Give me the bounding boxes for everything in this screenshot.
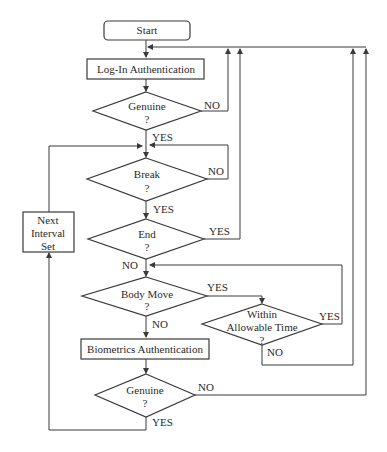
node-next-interval-line2: Interval — [31, 227, 65, 239]
label-end-yes: YES — [209, 225, 230, 237]
label-genuine1-no: NO — [204, 99, 220, 111]
label-genuine2-no: NO — [198, 381, 214, 393]
label-bodymove-no: NO — [152, 318, 168, 330]
node-within-time-line2: Allowable Time — [226, 321, 297, 333]
label-within-yes: YES — [319, 310, 340, 322]
node-end-line1: End — [138, 228, 156, 240]
node-genuine2-line1: Genuine — [126, 384, 163, 396]
node-next-interval-line1: Next — [37, 214, 58, 226]
label-genuine1-yes: YES — [152, 131, 173, 143]
label-within-no: NO — [267, 346, 283, 358]
node-break-line2: ? — [145, 182, 150, 194]
node-biometrics: Biometrics Authentication — [81, 339, 209, 359]
node-biometrics-label: Biometrics Authentication — [87, 343, 203, 355]
edge-bodymove-yes — [207, 296, 262, 303]
node-within-time: Within Allowable Time ? — [202, 304, 322, 346]
node-login: Log-In Authentication — [87, 59, 204, 79]
node-genuine2-line2: ? — [143, 397, 148, 409]
node-login-label: Log-In Authentication — [97, 63, 196, 75]
node-start: Start — [104, 21, 190, 40]
label-break-no: NO — [208, 165, 224, 177]
label-bodymove-yes: YES — [207, 281, 228, 293]
node-body-move: Body Move ? — [82, 277, 207, 316]
node-body-move-line2: ? — [145, 300, 150, 312]
node-break-line1: Break — [134, 168, 161, 180]
label-break-yes: YES — [153, 203, 174, 215]
node-break: Break ? — [87, 158, 207, 201]
node-genuine2: Genuine ? — [95, 374, 195, 417]
node-next-interval-line3: Set — [41, 240, 55, 252]
node-within-time-line3: ? — [260, 334, 265, 346]
node-body-move-line1: Body Move — [121, 288, 173, 300]
node-genuine1: Genuine ? — [93, 92, 201, 130]
node-start-label: Start — [137, 24, 158, 36]
node-genuine1-line2: ? — [145, 113, 150, 125]
node-end-line2: ? — [145, 241, 150, 253]
edge-genuine2-no — [195, 49, 366, 395]
label-genuine2-yes: YES — [152, 416, 173, 428]
node-within-time-line1: Within — [247, 308, 278, 320]
node-genuine1-line1: Genuine — [128, 100, 165, 112]
node-end: End ? — [88, 219, 204, 259]
edge-end-yes — [204, 49, 240, 239]
label-end-no: NO — [122, 259, 138, 271]
flowchart: Start Log-In Authentication Genuine ? Br… — [0, 0, 387, 452]
node-next-interval: Next Interval Set — [23, 212, 74, 252]
